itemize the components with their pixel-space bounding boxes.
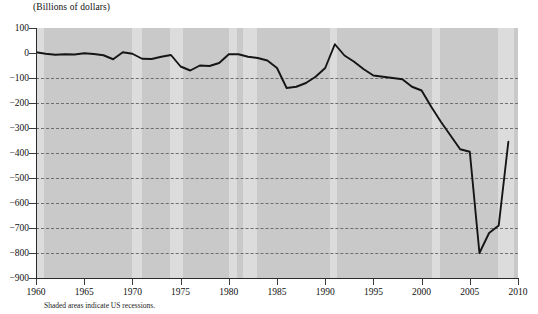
x-axis-tick-label: 1975 xyxy=(171,287,190,297)
chart-container: (Billions of dollars) 1000−100−200−300−4… xyxy=(0,0,538,314)
series-path xyxy=(36,44,508,253)
y-axis-tick xyxy=(29,228,36,229)
x-axis-tick-label: 1990 xyxy=(316,287,335,297)
y-axis-labels: 1000−100−200−300−400−500−600−700−800−900 xyxy=(0,0,29,314)
chart-footnote: Shaded areas indicate US recessions. xyxy=(44,301,155,310)
y-axis-tick xyxy=(29,178,36,179)
y-axis-tick-label: −400 xyxy=(2,148,29,158)
y-axis-tick-label: −800 xyxy=(2,248,29,258)
x-axis-tick xyxy=(229,279,230,285)
data-series-line xyxy=(36,28,518,278)
y-axis-tick-label: −100 xyxy=(2,73,29,83)
y-axis-tick xyxy=(29,28,36,29)
x-axis-tick xyxy=(422,279,423,285)
y-axis-tick-label: 0 xyxy=(2,48,29,58)
x-axis-tick-label: 1965 xyxy=(75,287,94,297)
x-axis-tick xyxy=(132,279,133,285)
x-axis-tick xyxy=(84,279,85,285)
y-axis-tick-label: −900 xyxy=(2,273,29,283)
y-axis-tick xyxy=(29,103,36,104)
x-axis-tick-label: 2010 xyxy=(509,287,528,297)
y-axis-tick-label: 100 xyxy=(2,23,29,33)
y-axis-tick xyxy=(29,203,36,204)
x-axis-tick-label: 1960 xyxy=(27,287,46,297)
x-axis-tick xyxy=(518,279,519,285)
plot-area xyxy=(36,28,518,278)
y-axis-line xyxy=(36,28,37,279)
x-axis-tick-label: 1995 xyxy=(364,287,383,297)
x-axis-tick-label: 1985 xyxy=(268,287,287,297)
x-axis-tick-label: 1970 xyxy=(123,287,142,297)
x-axis-tick xyxy=(277,279,278,285)
x-axis-tick xyxy=(36,279,37,285)
y-axis-tick xyxy=(29,278,36,279)
y-axis-tick xyxy=(29,78,36,79)
x-axis-tick-label: 2000 xyxy=(412,287,431,297)
x-axis-tick xyxy=(373,279,374,285)
y-axis-tick-label: −600 xyxy=(2,198,29,208)
y-axis-tick xyxy=(29,153,36,154)
x-axis-tick xyxy=(470,279,471,285)
y-axis-tick-label: −700 xyxy=(2,223,29,233)
y-axis-tick xyxy=(29,253,36,254)
chart-axis-title: (Billions of dollars) xyxy=(33,2,110,12)
y-axis-tick xyxy=(29,128,36,129)
y-axis-tick-label: −300 xyxy=(2,123,29,133)
x-axis-tick-label: 2005 xyxy=(460,287,479,297)
y-axis-tick-label: −500 xyxy=(2,173,29,183)
x-axis-tick xyxy=(181,279,182,285)
x-axis-tick-label: 1980 xyxy=(219,287,238,297)
y-axis-tick-label: −200 xyxy=(2,98,29,108)
x-axis-tick xyxy=(325,279,326,285)
y-axis-tick xyxy=(29,53,36,54)
